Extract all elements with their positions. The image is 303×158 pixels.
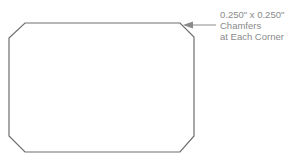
callout-line-2: Chamfers xyxy=(220,20,284,31)
chamfered-rectangle xyxy=(9,23,194,152)
callout-line-1: 0.250" x 0.250" xyxy=(220,9,284,20)
callout-line-3: at Each Corner xyxy=(220,31,284,42)
chamfer-callout: 0.250" x 0.250" Chamfers at Each Corner xyxy=(220,9,284,42)
